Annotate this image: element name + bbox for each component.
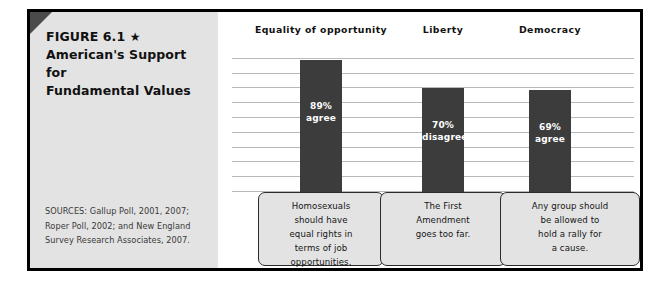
bar-value-2: 70% xyxy=(432,120,454,130)
chart-column-headers: Equality of opportunityLibertyDemocracy xyxy=(218,12,640,38)
figure-title-line1: American's Support for xyxy=(46,47,186,80)
star-icon: ★ xyxy=(130,30,141,44)
statement-1-line-3: equal rights in xyxy=(289,229,352,239)
figure-title-line2: Fundamental Values xyxy=(46,83,191,98)
bar-value-3: 69% xyxy=(539,122,561,132)
chart-bar-label-3: 69%agree xyxy=(529,121,571,145)
statement-2-line-3: goes too far. xyxy=(416,229,471,239)
bar-response-2: disagree xyxy=(422,132,468,142)
statement-3-line-2: be allowed to xyxy=(541,215,600,225)
statement-1-line-1: Homosexuals xyxy=(292,201,351,211)
chart-bar-label-2: 70%disagree xyxy=(422,119,464,143)
statement-box-1: Homosexualsshould haveequal rights inter… xyxy=(258,192,384,266)
figure-root: FIGURE 6.1 ★ American's Support for Fund… xyxy=(0,0,668,286)
statement-3-line-4: a cause. xyxy=(552,243,589,253)
statement-1-line-5: opportunities. xyxy=(291,257,352,267)
chart-column-header-3: Democracy xyxy=(519,24,581,35)
chart-column-header-1: Equality of opportunity xyxy=(255,24,387,35)
gridline xyxy=(232,73,634,74)
statement-1-line-2: should have xyxy=(294,215,347,225)
bar-response-3: agree xyxy=(535,134,565,144)
statement-2-line-2: Amendment xyxy=(416,215,470,225)
chart-bar-1: 89%agree xyxy=(300,60,342,192)
statement-box-3: Any group shouldbe allowed tohold a rall… xyxy=(500,192,640,266)
statement-3-line-3: hold a rally for xyxy=(538,229,602,239)
bar-value-1: 89% xyxy=(310,101,332,111)
chart-bar-3: 69%agree xyxy=(529,90,571,192)
sources-line-1: SOURCES: Gallup Poll, 2001, 2007; xyxy=(45,206,189,216)
figure-caption-panel: FIGURE 6.1 ★ American's Support for Fund… xyxy=(30,12,218,268)
gridline xyxy=(232,58,634,59)
sources-line-2: Roper Poll, 2002; and New England xyxy=(45,221,191,231)
statement-3-line-1: Any group should xyxy=(532,201,609,211)
chart-bar-label-1: 89%agree xyxy=(300,100,342,124)
bar-response-1: agree xyxy=(306,113,336,123)
figure-sources: SOURCES: Gallup Poll, 2001, 2007; Roper … xyxy=(45,204,213,248)
chart-area: Equality of opportunityLibertyDemocracy … xyxy=(218,12,640,268)
statement-box-2: The FirstAmendmentgoes too far. xyxy=(380,192,506,266)
chart-column-header-2: Liberty xyxy=(423,24,463,35)
sources-line-3: Survey Research Associates, 2007. xyxy=(45,235,190,245)
figure-title: FIGURE 6.1 ★ American's Support for Fund… xyxy=(46,28,206,99)
chart-bar-2: 70%disagree xyxy=(422,88,464,192)
figure-number: FIGURE 6.1 xyxy=(46,29,125,44)
chart-plot: 89%agree70%disagree69%agree xyxy=(218,44,640,192)
statement-1-line-4: terms of job xyxy=(295,243,348,253)
statement-2-line-1: The First xyxy=(424,201,462,211)
